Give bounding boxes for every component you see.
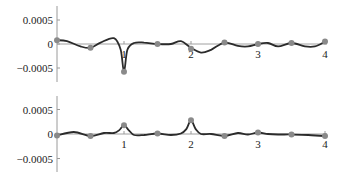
x-tick-label: 3 [255,138,261,150]
data-point [322,133,328,139]
data-point [88,45,94,51]
data-point [54,132,60,138]
data-point [255,130,261,136]
data-point [222,40,228,46]
chart-figure: 0.00050−0.000512340.00050−0.00051234 [0,0,342,177]
data-point [255,41,261,47]
y-tick-label: −0.0005 [17,153,54,165]
data-point [121,69,127,75]
data-point [222,133,228,139]
x-tick-label: 4 [322,138,328,150]
data-point [188,46,194,52]
data-point [289,131,295,137]
y-tick-label: 0 [48,38,54,50]
data-point [54,37,60,43]
x-tick-label: 1 [121,138,127,150]
data-point [88,133,94,139]
y-tick-label: 0.0005 [23,14,54,26]
data-point [289,40,295,46]
y-tick-label: −0.0005 [17,62,54,74]
data-point [121,122,127,128]
y-tick-label: 0 [48,128,54,140]
data-point [322,39,328,45]
y-tick-label: 0.0005 [23,104,54,116]
data-point [188,117,194,123]
data-point [155,41,161,47]
x-tick-label: 2 [188,138,194,150]
x-tick-label: 4 [322,48,328,60]
data-point [155,131,161,137]
x-tick-label: 3 [255,48,261,60]
